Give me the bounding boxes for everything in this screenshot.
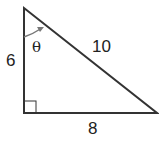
angle-label-theta: θ [32, 40, 41, 55]
side-label-hypotenuse: 10 [92, 38, 111, 55]
triangle [24, 8, 157, 113]
side-label-horizontal: 8 [88, 120, 97, 137]
right-angle-marker [24, 101, 36, 113]
side-label-vertical: 6 [6, 52, 15, 69]
triangle-figure [0, 0, 159, 142]
